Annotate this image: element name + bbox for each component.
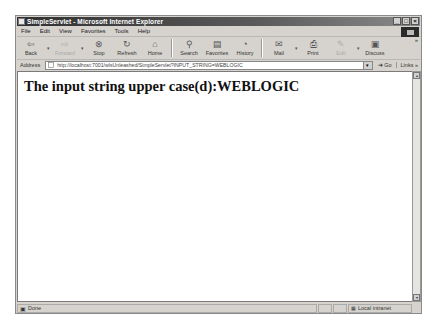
menu-tools[interactable]: Tools [111,28,134,34]
stop-label: Stop [93,50,104,57]
back-arrow-icon: ⇦ [27,39,35,50]
discuss-label: Discuss [365,50,384,57]
history-button[interactable]: ◔ History [231,37,259,59]
back-button[interactable]: ⇦ Back [17,37,45,59]
history-label: History [236,50,253,57]
vertical-scrollbar[interactable]: ▴ ▾ [412,71,421,302]
status-bar: ▣ Done ▦ Local intranet [17,303,420,313]
mail-button[interactable]: ✉ Mail [265,37,293,59]
status-text-pane: ▣ Done [17,304,317,313]
links-button[interactable]: Links » [396,62,420,68]
stop-button[interactable]: ⊗ Stop [85,37,113,59]
ie-app-icon [18,18,25,25]
browser-window: SimpleServlet - Microsoft Internet Explo… [15,15,422,314]
security-zone-pane: ▦ Local intranet [348,304,412,313]
favorites-icon: ▤ [213,39,222,50]
back-label: Back [25,50,37,57]
print-label: Print [307,50,318,57]
zone-text: Local intranet [358,305,391,311]
refresh-icon: ↻ [123,39,131,50]
refresh-label: Refresh [117,50,136,57]
window-title: SimpleServlet - Microsoft Internet Explo… [27,18,163,25]
address-label: Address [17,62,43,68]
minimize-button[interactable]: _ [393,17,401,25]
edit-icon: ✎ [337,39,345,50]
print-button[interactable]: ⎙ Print [299,37,327,59]
forward-arrow-icon: ⇨ [61,39,69,50]
scroll-up-button[interactable]: ▴ [413,72,420,79]
history-icon: ◔ [242,39,247,50]
status-pane [333,304,347,313]
edit-label: Edit [336,50,345,57]
standard-toolbar: ⇦ Back ▾ ⇨ Forward ▾ ⊗ Stop ↻ Refresh ⌂ … [17,36,420,60]
forward-label: Forward [55,50,75,57]
home-icon: ⌂ [152,39,157,50]
page-content: The input string upper case(d):WEBLOGIC [17,71,412,302]
address-dropdown-button[interactable]: ▾ [363,62,372,69]
address-input[interactable]: http://localhost:7001/wlsUnleashed/Simpl… [45,61,373,70]
scroll-down-button[interactable]: ▾ [413,294,420,301]
discuss-icon: ▣ [371,39,380,50]
go-label: Go [384,62,391,68]
page-done-icon: ▣ [20,305,26,312]
page-icon [48,62,54,68]
status-text: Done [28,305,41,311]
close-button[interactable]: × [411,17,419,25]
windows-logo-icon [407,30,414,35]
menu-edit[interactable]: Edit [36,28,55,34]
page-heading: The input string upper case(d):WEBLOGIC [24,78,299,95]
home-button[interactable]: ⌂ Home [141,37,169,59]
menu-view[interactable]: View [55,28,77,34]
discuss-button[interactable]: ▣ Discuss [361,37,389,59]
search-label: Search [180,50,197,57]
go-button[interactable]: ➜ Go [373,62,396,68]
refresh-button[interactable]: ↻ Refresh [113,37,141,59]
search-icon: ⚲ [186,39,193,50]
mail-icon: ✉ [275,39,283,50]
resize-grip[interactable] [412,304,420,313]
favorites-button[interactable]: ▤ Favorites [203,37,231,59]
maximize-button[interactable]: □ [402,17,410,25]
toolbar-separator [261,39,263,57]
address-url: http://localhost:7001/wlsUnleashed/Simpl… [57,62,243,68]
stop-icon: ⊗ [95,39,103,50]
toolbar-overflow-chevron[interactable]: » [415,37,418,43]
search-button[interactable]: ⚲ Search [175,37,203,59]
title-bar[interactable]: SimpleServlet - Microsoft Internet Explo… [17,17,420,26]
forward-button[interactable]: ⇨ Forward [51,37,79,59]
menu-help[interactable]: Help [134,28,155,34]
status-pane [318,304,332,313]
home-label: Home [148,50,163,57]
mail-label: Mail [274,50,284,57]
intranet-zone-icon: ▦ [351,305,356,311]
toolbar-separator [171,39,173,57]
edit-button[interactable]: ✎ Edit [327,37,355,59]
favorites-label: Favorites [206,50,229,57]
print-icon: ⎙ [310,39,317,50]
menu-file[interactable]: File [17,28,36,34]
window-controls: _ □ × [393,17,419,25]
menu-favorites[interactable]: Favorites [77,28,111,34]
address-bar: Address http://localhost:7001/wlsUnleash… [17,59,420,71]
